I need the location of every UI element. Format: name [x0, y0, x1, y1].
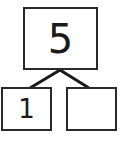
- part-box-right[interactable]: [66, 87, 117, 131]
- right-connector-line: [60, 70, 89, 88]
- left-connector-line: [30, 70, 60, 88]
- whole-value: 5: [48, 16, 73, 62]
- part-value-left: 1: [18, 94, 35, 124]
- part-box-left[interactable]: 1: [1, 87, 52, 131]
- whole-box: 5: [23, 7, 98, 70]
